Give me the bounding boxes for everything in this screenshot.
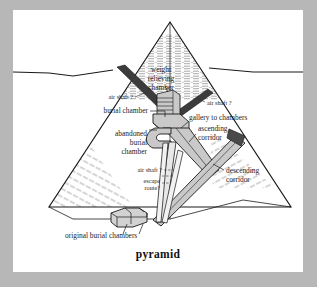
label-escape-route: escaperoute?	[144, 177, 161, 191]
label-line: route?	[145, 184, 161, 191]
label-line: escape	[144, 177, 161, 184]
label-line: burial chamber	[103, 106, 148, 115]
label-weight-relieving-chamber: weightrelievingchamber	[148, 65, 175, 92]
label-air-shaft-upper: air shaft ?	[109, 93, 134, 100]
label-line: chamber	[148, 83, 174, 92]
label-line: air shaft ?	[207, 99, 232, 106]
label-line: original burial chambers	[65, 231, 137, 240]
label-ascending-corridor: ascendingcorridor	[198, 124, 228, 142]
label-line: corridor	[198, 133, 222, 142]
label-gallery-to-chambers: gallery to chambers	[189, 113, 247, 122]
pyramid-cross-section-diagram: weightrelievingchamberair shaft ?burial …	[13, 10, 303, 272]
label-line: gallery to chambers	[189, 113, 247, 122]
label-line: air shaft ?	[138, 166, 163, 173]
label-line: corridor	[226, 175, 250, 184]
label-line: descending	[226, 166, 260, 175]
figure-mat: weightrelievingchamberair shaft ?burial …	[0, 0, 317, 287]
label-line: relieving	[148, 74, 175, 83]
label-line: chamber	[122, 147, 148, 156]
figure-panel: weightrelievingchamberair shaft ?burial …	[13, 10, 303, 272]
label-abandoned-burial-chamber: abandonedburialchamber	[115, 129, 148, 156]
label-line: weight	[151, 65, 172, 74]
pyramid-base-edge-left	[49, 207, 170, 219]
label-line: ascending	[198, 124, 228, 133]
pyramid-base-edge-right	[170, 200, 291, 219]
original-burial-chambers-structure	[111, 208, 147, 227]
label-burial-chamber: burial chamber	[103, 106, 148, 115]
label-air-shaft-right: air shaft ?	[207, 99, 232, 106]
label-line: burial	[130, 138, 147, 147]
label-original-burial-chambers: original burial chambers	[65, 231, 137, 240]
label-line: air shaft ?	[109, 93, 134, 100]
figure-caption: pyramid	[136, 248, 181, 261]
label-air-shaft-lower: air shaft ?	[138, 166, 163, 173]
label-line: abandoned	[115, 129, 147, 138]
